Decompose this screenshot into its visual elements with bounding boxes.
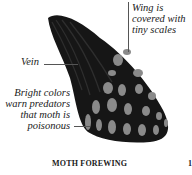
cut-off-char: 1 <box>188 159 192 168</box>
scales-leader-line <box>128 2 129 52</box>
figure-caption: MOTH FOREWING <box>52 159 127 168</box>
vein-leader-line <box>44 64 78 65</box>
label-scales: Wing is covered with tiny scales <box>132 2 186 35</box>
label-colors: Bright colors warn predators that moth i… <box>0 87 70 131</box>
colors-leader-line <box>74 126 90 127</box>
label-vein: Vein <box>0 56 39 67</box>
